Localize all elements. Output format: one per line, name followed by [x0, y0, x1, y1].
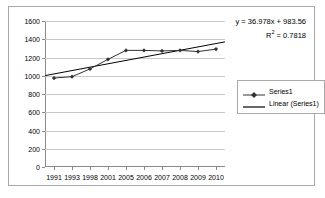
data-point-marker[interactable]	[106, 57, 110, 61]
x-axis-label: 2001	[100, 174, 116, 181]
legend-label-series1: Series1	[269, 88, 293, 95]
y-axis-label: 1600	[24, 18, 40, 25]
y-axis-label: 1200	[24, 54, 40, 61]
chart-legend: Series1 Linear (Series1)	[237, 80, 325, 114]
data-point-marker[interactable]	[52, 76, 56, 80]
diamond-marker-icon	[242, 86, 266, 96]
legend-item-series1[interactable]: Series1	[242, 85, 319, 97]
y-axis-label: 200	[28, 145, 40, 152]
x-axis-label: 2005	[118, 174, 134, 181]
y-axis-label: 0	[36, 164, 40, 171]
y-tick-mark	[42, 167, 45, 168]
x-tick-mark	[216, 167, 217, 170]
plot-area: 02004006008001000120014001600 1991199319…	[45, 21, 225, 167]
data-point-marker[interactable]	[214, 47, 218, 51]
x-axis-label: 2007	[154, 174, 170, 181]
x-axis-label: 2006	[136, 174, 152, 181]
series-plot	[45, 21, 225, 167]
x-axis-label: 2010	[208, 174, 224, 181]
x-axis-label: 1993	[64, 174, 80, 181]
x-axis-label: 1998	[82, 174, 98, 181]
y-axis-label: 600	[28, 109, 40, 116]
trendline-equation-annotation: y = 36.978x + 983.56 R2 = 0.7818	[236, 16, 306, 41]
y-axis-label: 400	[28, 127, 40, 134]
x-tick-mark	[126, 167, 127, 170]
series-line-path	[54, 49, 216, 78]
line-marker-icon	[242, 98, 266, 108]
y-axis-label: 1000	[24, 72, 40, 79]
data-point-marker[interactable]	[196, 49, 200, 53]
r-squared-number: = 0.7818	[275, 31, 307, 40]
x-axis-label: 2009	[190, 174, 206, 181]
x-tick-mark	[180, 167, 181, 170]
y-axis-label: 1400	[24, 36, 40, 43]
x-axis-label: 1991	[46, 174, 62, 181]
x-tick-mark	[144, 167, 145, 170]
x-axis-label: 2008	[172, 174, 188, 181]
regression-equation: y = 36.978x + 983.56	[236, 16, 306, 27]
data-point-marker[interactable]	[142, 48, 146, 52]
x-tick-mark	[90, 167, 91, 170]
data-point-marker[interactable]	[178, 48, 182, 52]
data-point-marker[interactable]	[124, 48, 128, 52]
x-tick-mark	[108, 167, 109, 170]
y-axis-label: 800	[28, 91, 40, 98]
r-squared-value: R2 = 0.7818	[236, 27, 306, 41]
legend-item-trendline[interactable]: Linear (Series1)	[242, 97, 319, 109]
legend-label-trendline: Linear (Series1)	[269, 100, 319, 107]
x-tick-mark	[198, 167, 199, 170]
chart-container: 02004006008001000120014001600 1991199319…	[8, 6, 315, 186]
x-tick-mark	[54, 167, 55, 170]
x-tick-mark	[162, 167, 163, 170]
x-tick-mark	[72, 167, 73, 170]
data-point-marker[interactable]	[70, 75, 74, 79]
trendline-path	[45, 42, 225, 76]
data-point-marker[interactable]	[160, 49, 164, 53]
